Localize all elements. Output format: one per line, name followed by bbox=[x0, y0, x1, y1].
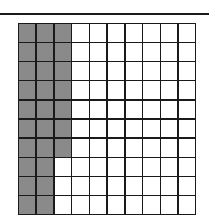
unshaded-cell bbox=[90, 62, 106, 80]
shaded-cell bbox=[37, 62, 53, 80]
unshaded-cell bbox=[179, 101, 195, 119]
unshaded-cell bbox=[161, 139, 177, 157]
unshaded-cell bbox=[72, 196, 88, 214]
unshaded-cell bbox=[55, 177, 71, 195]
unshaded-cell bbox=[108, 62, 124, 80]
unshaded-cell bbox=[161, 196, 177, 214]
unshaded-cell bbox=[108, 101, 124, 119]
shaded-cell bbox=[55, 101, 71, 119]
shaded-cell bbox=[37, 139, 53, 157]
unshaded-cell bbox=[143, 120, 159, 138]
unshaded-cell bbox=[90, 196, 106, 214]
shaded-cell bbox=[55, 81, 71, 99]
unshaded-cell bbox=[72, 177, 88, 195]
shaded-cell bbox=[37, 24, 53, 42]
shaded-cell bbox=[37, 43, 53, 61]
unshaded-cell bbox=[179, 196, 195, 214]
unshaded-cell bbox=[108, 139, 124, 157]
shaded-cell bbox=[19, 120, 35, 138]
unshaded-cell bbox=[161, 120, 177, 138]
unshaded-cell bbox=[55, 158, 71, 176]
unshaded-cell bbox=[72, 139, 88, 157]
unshaded-cell bbox=[55, 196, 71, 214]
shaded-cell bbox=[19, 81, 35, 99]
unshaded-cell bbox=[72, 101, 88, 119]
unshaded-cell bbox=[108, 158, 124, 176]
unshaded-cell bbox=[179, 120, 195, 138]
shaded-cell bbox=[19, 196, 35, 214]
unshaded-cell bbox=[90, 43, 106, 61]
unshaded-cell bbox=[126, 177, 142, 195]
unshaded-cell bbox=[143, 24, 159, 42]
unshaded-cell bbox=[90, 101, 106, 119]
unshaded-cell bbox=[108, 196, 124, 214]
unshaded-cell bbox=[179, 62, 195, 80]
unshaded-cell bbox=[126, 43, 142, 61]
unshaded-cell bbox=[126, 81, 142, 99]
unshaded-cell bbox=[161, 81, 177, 99]
shaded-cell bbox=[37, 101, 53, 119]
unshaded-cell bbox=[143, 139, 159, 157]
hundred-square-grid bbox=[18, 23, 196, 215]
unshaded-cell bbox=[126, 120, 142, 138]
unshaded-cell bbox=[143, 196, 159, 214]
unshaded-cell bbox=[143, 158, 159, 176]
shaded-cell bbox=[55, 43, 71, 61]
shaded-cell bbox=[19, 62, 35, 80]
shaded-cell bbox=[55, 24, 71, 42]
unshaded-cell bbox=[143, 177, 159, 195]
unshaded-cell bbox=[143, 43, 159, 61]
unshaded-cell bbox=[126, 24, 142, 42]
unshaded-cell bbox=[72, 43, 88, 61]
shaded-cell bbox=[37, 158, 53, 176]
unshaded-cell bbox=[108, 177, 124, 195]
unshaded-cell bbox=[161, 62, 177, 80]
unshaded-cell bbox=[179, 43, 195, 61]
unshaded-cell bbox=[108, 24, 124, 42]
shaded-cell bbox=[19, 24, 35, 42]
unshaded-cell bbox=[143, 62, 159, 80]
unshaded-cell bbox=[72, 81, 88, 99]
unshaded-cell bbox=[179, 177, 195, 195]
unshaded-cell bbox=[126, 196, 142, 214]
unshaded-cell bbox=[161, 158, 177, 176]
unshaded-cell bbox=[90, 139, 106, 157]
shaded-cell bbox=[55, 62, 71, 80]
unshaded-cell bbox=[179, 158, 195, 176]
shaded-cell bbox=[37, 177, 53, 195]
unshaded-cell bbox=[90, 158, 106, 176]
shaded-cell bbox=[37, 120, 53, 138]
shaded-cell bbox=[37, 196, 53, 214]
unshaded-cell bbox=[179, 139, 195, 157]
unshaded-cell bbox=[143, 81, 159, 99]
unshaded-cell bbox=[143, 101, 159, 119]
unshaded-cell bbox=[90, 24, 106, 42]
unshaded-cell bbox=[161, 43, 177, 61]
shaded-cell bbox=[19, 177, 35, 195]
unshaded-cell bbox=[126, 139, 142, 157]
unshaded-cell bbox=[108, 120, 124, 138]
unshaded-cell bbox=[72, 158, 88, 176]
unshaded-cell bbox=[108, 81, 124, 99]
top-rule-divider bbox=[0, 13, 209, 15]
unshaded-cell bbox=[126, 101, 142, 119]
shaded-cell bbox=[19, 43, 35, 61]
unshaded-cell bbox=[90, 81, 106, 99]
unshaded-cell bbox=[161, 177, 177, 195]
unshaded-cell bbox=[72, 24, 88, 42]
unshaded-cell bbox=[72, 120, 88, 138]
unshaded-cell bbox=[179, 24, 195, 42]
unshaded-cell bbox=[161, 101, 177, 119]
shaded-cell bbox=[19, 158, 35, 176]
unshaded-cell bbox=[126, 158, 142, 176]
unshaded-cell bbox=[90, 177, 106, 195]
unshaded-cell bbox=[161, 24, 177, 42]
unshaded-cell bbox=[72, 62, 88, 80]
shaded-cell bbox=[19, 139, 35, 157]
unshaded-cell bbox=[108, 43, 124, 61]
shaded-cell bbox=[55, 139, 71, 157]
unshaded-cell bbox=[179, 81, 195, 99]
shaded-cell bbox=[19, 101, 35, 119]
shaded-cell bbox=[55, 120, 71, 138]
unshaded-cell bbox=[90, 120, 106, 138]
